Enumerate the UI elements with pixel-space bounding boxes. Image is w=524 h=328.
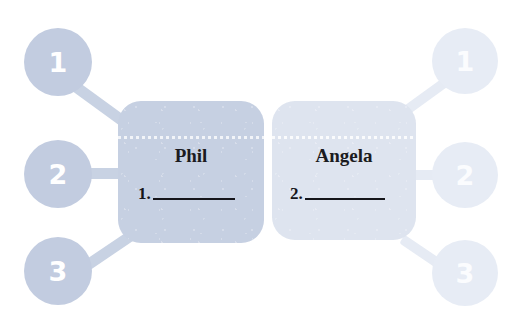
node-left-1[interactable]: 1	[24, 28, 92, 96]
node-left-3[interactable]: 3	[24, 237, 92, 305]
card-phil-entry[interactable]: 1.	[138, 185, 235, 202]
node-left-1-label: 1	[49, 49, 68, 76]
node-left-2[interactable]: 2	[24, 140, 92, 208]
card-phil-entry-blank[interactable]	[153, 198, 235, 200]
card-phil-entry-number: 1.	[138, 185, 151, 202]
node-right-1[interactable]: 1	[432, 28, 498, 94]
node-left-2-label: 2	[49, 161, 68, 188]
node-right-2[interactable]: 2	[432, 142, 498, 208]
node-right-3[interactable]: 3	[432, 240, 498, 306]
diagram-canvas: 1 2 3 1 2 3 Phil 1. Angela 2.	[0, 0, 524, 328]
card-angela-entry-blank[interactable]	[305, 198, 385, 200]
card-phil-name: Phil	[118, 146, 264, 165]
card-angela-entry-number: 2.	[290, 185, 303, 202]
node-right-2-label: 2	[456, 162, 475, 189]
card-angela-name: Angela	[272, 146, 416, 165]
node-right-1-label: 1	[456, 48, 475, 75]
node-left-3-label: 3	[49, 258, 68, 285]
card-phil-perforation	[118, 136, 264, 139]
card-phil[interactable]: Phil 1.	[118, 101, 264, 243]
node-right-3-label: 3	[456, 260, 475, 287]
card-angela-entry[interactable]: 2.	[290, 185, 385, 202]
card-angela[interactable]: Angela 2.	[272, 101, 416, 240]
card-angela-perforation	[272, 136, 416, 139]
